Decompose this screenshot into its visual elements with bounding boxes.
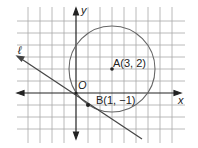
- point-b: [86, 103, 90, 107]
- x-axis-left-arrow-icon: [17, 91, 24, 96]
- y-axis-bottom-arrow-icon: [74, 132, 79, 139]
- y-axis: [74, 8, 79, 139]
- origin-point: [74, 91, 77, 94]
- y-axis-top-arrow-icon: [74, 8, 79, 15]
- y-axis-label: y: [80, 4, 88, 16]
- point-a-label: A(3, 2): [113, 57, 146, 69]
- coordinate-diagram: y x O ℓ A(3, 2) B(1, −1): [0, 0, 198, 148]
- x-axis-label: x: [177, 94, 184, 106]
- line-l-label: ℓ: [17, 44, 22, 56]
- point-b-label: B(1, −1): [96, 94, 135, 106]
- origin-label: O: [78, 79, 87, 91]
